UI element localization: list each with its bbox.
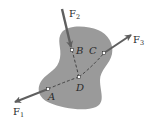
point-label-a: A: [47, 91, 55, 102]
point-label-b: B: [75, 45, 83, 56]
point-label-d: D: [75, 82, 84, 93]
force-label-f1: F1: [13, 106, 24, 119]
point-b-marker: [71, 49, 74, 52]
force-label-f3: F3: [133, 34, 144, 47]
point-c-marker: [103, 52, 106, 55]
point-d-marker: [78, 76, 81, 79]
point-label-c: C: [89, 45, 97, 56]
force-label-f2: F2: [69, 8, 80, 21]
force-diagram: B C D A F2 F3 F1: [0, 0, 154, 124]
